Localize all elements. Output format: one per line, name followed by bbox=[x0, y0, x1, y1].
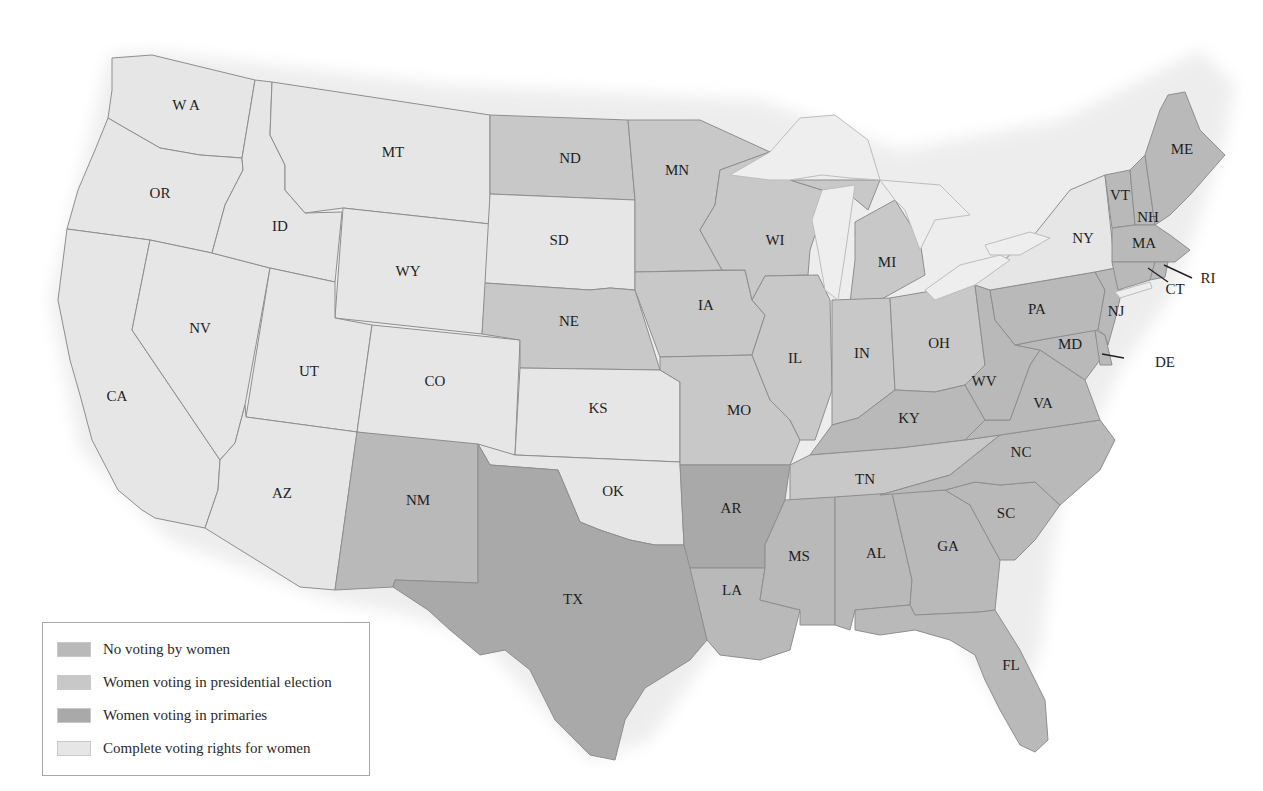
state-label-mn: MN bbox=[665, 162, 689, 178]
state-label-wv: WV bbox=[972, 373, 997, 389]
legend-swatch-presidential bbox=[57, 675, 91, 690]
legend-label-complete: Complete voting rights for women bbox=[103, 740, 310, 757]
state-label-wa: W A bbox=[172, 97, 200, 113]
legend-label-primaries: Women voting in primaries bbox=[103, 707, 267, 724]
state-label-nm: NM bbox=[406, 492, 430, 508]
legend: No voting by women Women voting in presi… bbox=[42, 622, 370, 776]
state-label-vt: VT bbox=[1110, 187, 1130, 203]
state-label-in: IN bbox=[854, 345, 870, 361]
state-label-tn: TN bbox=[855, 471, 875, 487]
state-label-or: OR bbox=[150, 185, 171, 201]
state-label-ny: NY bbox=[1072, 230, 1094, 246]
state-label-ut: UT bbox=[299, 363, 319, 379]
state-label-va: VA bbox=[1033, 395, 1053, 411]
state-nm[interactable] bbox=[335, 432, 478, 590]
state-label-sd: SD bbox=[549, 232, 568, 248]
state-label-ca: CA bbox=[107, 388, 128, 404]
state-label-al: AL bbox=[866, 545, 886, 561]
state-label-nc: NC bbox=[1011, 444, 1032, 460]
legend-item-none: No voting by women bbox=[57, 633, 369, 666]
state-label-mo: MO bbox=[727, 402, 751, 418]
state-label-ky: KY bbox=[898, 410, 920, 426]
legend-item-primaries: Women voting in primaries bbox=[57, 699, 369, 732]
legend-item-complete: Complete voting rights for women bbox=[57, 732, 369, 765]
state-label-nv: NV bbox=[189, 320, 211, 336]
state-label-mt: MT bbox=[382, 144, 405, 160]
state-label-ma: MA bbox=[1132, 235, 1156, 251]
state-label-ga: GA bbox=[937, 538, 959, 554]
state-label-mi: MI bbox=[878, 254, 896, 270]
state-label-md: MD bbox=[1058, 336, 1082, 352]
state-label-il: IL bbox=[788, 350, 802, 366]
state-label-wy: WY bbox=[396, 263, 421, 279]
state-label-ar: AR bbox=[721, 500, 742, 516]
state-label-ms: MS bbox=[788, 548, 810, 564]
state-label-id: ID bbox=[272, 218, 288, 234]
state-label-ne: NE bbox=[559, 313, 579, 329]
state-label-nd: ND bbox=[559, 150, 581, 166]
legend-label-none: No voting by women bbox=[103, 641, 230, 658]
state-label-oh: OH bbox=[928, 335, 950, 351]
suffrage-map: W AORCANVIDMTWYUTCOAZNMNDSDNEKSOKTXMNIAM… bbox=[0, 0, 1263, 791]
state-label-fl: FL bbox=[1002, 657, 1020, 673]
state-label-pa: PA bbox=[1028, 301, 1046, 317]
state-label-wi: WI bbox=[765, 232, 784, 248]
state-label-ks: KS bbox=[588, 400, 607, 416]
state-label-nj: NJ bbox=[1108, 303, 1125, 319]
legend-swatch-none bbox=[57, 642, 91, 657]
state-label-ri: RI bbox=[1201, 270, 1216, 286]
legend-swatch-complete bbox=[57, 741, 91, 756]
state-label-la: LA bbox=[722, 582, 742, 598]
legend-item-presidential: Women voting in presidential election bbox=[57, 666, 369, 699]
state-label-ct: CT bbox=[1165, 281, 1184, 297]
legend-label-presidential: Women voting in presidential election bbox=[103, 674, 332, 691]
state-label-nh: NH bbox=[1137, 209, 1159, 225]
state-label-az: AZ bbox=[272, 485, 292, 501]
state-label-tx: TX bbox=[563, 591, 583, 607]
legend-swatch-primaries bbox=[57, 708, 91, 723]
state-label-co: CO bbox=[425, 373, 446, 389]
state-label-me: ME bbox=[1171, 141, 1194, 157]
state-label-ia: IA bbox=[698, 297, 714, 313]
state-label-de: DE bbox=[1155, 354, 1175, 370]
state-label-ok: OK bbox=[602, 483, 624, 499]
state-label-sc: SC bbox=[997, 505, 1015, 521]
